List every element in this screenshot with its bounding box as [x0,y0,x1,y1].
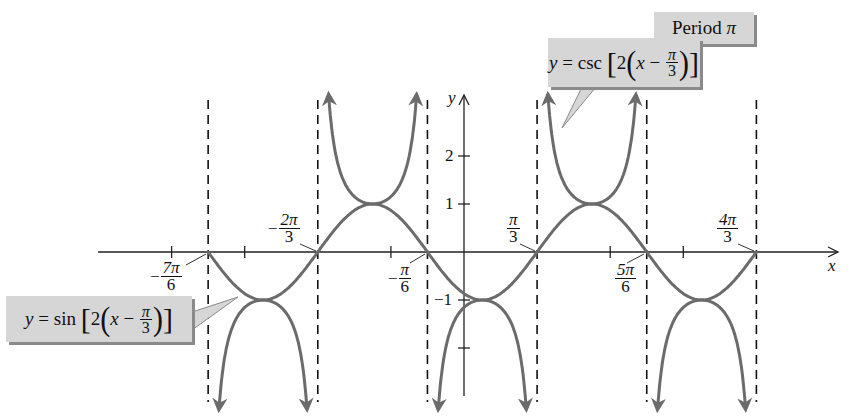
csc-callout: y = csc [2(x − π3)] [548,38,700,87]
csc-branch-up [548,98,635,204]
y-tick-label-minus-1: −1 [434,290,452,310]
leader-lines [186,244,754,265]
x-label-minus-pi-6: −π6 [388,262,412,295]
sin-fn: sin [54,308,76,330]
sin-callout: y = sin [2(x − π3)] [6,296,192,342]
sin-bracket-close: ] [163,304,173,334]
csc-paren-close: ) [679,46,689,79]
csc-x: x [636,52,644,74]
y-tick-label-2: 2 [445,146,454,166]
csc-branch-down [439,300,527,406]
period-pi: π [726,17,736,39]
sin-eq: = [38,308,49,330]
period-word: Period [672,17,722,39]
csc-bracket-close: ] [689,48,699,78]
sin-fraction: π3 [140,304,152,335]
csc-fraction: π3 [666,47,678,78]
sin-paren-close: ) [153,303,163,336]
x-label-4pi-3: 4π3 [716,212,739,245]
sin-minus: − [123,308,134,330]
y-tick-label-1: 1 [445,194,454,214]
csc-paren-open: ( [626,46,636,79]
csc-two: 2 [617,52,627,74]
csc-minus: − [649,52,660,74]
sin-x: x [110,308,118,330]
y-axis-label: y [448,88,456,108]
sin-two: 2 [91,308,101,330]
csc-y: y [549,52,557,74]
csc-eq: = [562,52,573,74]
x-label-minus-2pi-3: −2π3 [268,212,301,245]
csc-branch-up [329,98,416,204]
csc-fn: csc [578,52,602,74]
x-label-5pi-6: 5π6 [614,262,637,295]
sin-callout-pointer [192,297,238,330]
x-axis-label: x [828,256,836,276]
csc-branch-down [219,300,307,406]
csc-bracket-open: [ [607,48,617,78]
sin-y: y [25,308,33,330]
x-label-pi-3: π3 [506,212,521,245]
asymptotes [208,100,756,402]
sin-bracket-open: [ [81,304,91,334]
csc-branch-down [658,300,746,406]
x-label-minus-7pi-6: −7π6 [150,260,183,293]
plot-area [0,0,856,416]
sin-paren-open: ( [100,303,110,336]
csc-callout-pointer [562,87,596,128]
